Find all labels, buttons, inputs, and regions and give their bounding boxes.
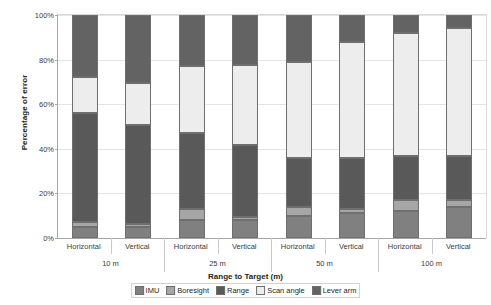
bar-segment-scan-angle: [339, 42, 365, 158]
stacked-bar: [286, 15, 312, 238]
bar-segment-scan-angle: [72, 77, 98, 113]
category-row-range: 10 m25 m50 m100 m: [57, 254, 486, 272]
bar-segment-scan-angle: [125, 83, 151, 125]
legend-label: Range: [227, 286, 249, 295]
category-axis: HorizontalVerticalHorizontalVerticalHori…: [57, 238, 486, 272]
legend-item: IMU: [135, 286, 160, 295]
category-label: Horizontal: [57, 238, 111, 254]
legend-swatch-icon: [216, 286, 225, 295]
legend-swatch-icon: [135, 286, 144, 295]
legend-label: Lever arm: [323, 286, 357, 295]
bar-segment-scan-angle: [446, 28, 472, 155]
bar-segment-boresight: [72, 222, 98, 226]
x-axis-title: Range to Target (m): [0, 272, 491, 281]
y-tick-label: 80%: [39, 55, 54, 64]
y-tick-label: 100%: [35, 11, 54, 20]
bar-segment-range: [179, 133, 205, 209]
bar-segment-lever-arm: [446, 15, 472, 28]
legend-label: Boresight: [177, 286, 209, 295]
bar-segment-boresight: [232, 217, 258, 220]
category-separator: [111, 238, 112, 254]
bar-segment-boresight: [339, 209, 365, 213]
bar-segment-boresight: [393, 200, 419, 211]
bar-segment-boresight: [446, 200, 472, 207]
bar-segment-imu: [286, 216, 312, 238]
stacked-bar: [125, 15, 151, 238]
stacked-bar: [339, 15, 365, 238]
bar-segment-scan-angle: [232, 65, 258, 145]
bar-segment-imu: [393, 211, 419, 238]
category-label: Horizontal: [164, 238, 218, 254]
y-tick-label: 60%: [39, 100, 54, 109]
bar-segment-boresight: [286, 207, 312, 216]
bar-segment-imu: [179, 220, 205, 238]
stacked-bar-chart: Percentage of error 0%20%40%60%80%100% H…: [0, 0, 491, 305]
category-separator: [432, 238, 433, 254]
bar-segment-lever-arm: [125, 15, 151, 83]
legend-item: Boresight: [166, 286, 209, 295]
bar-segment-range: [72, 113, 98, 222]
bar-segment-lever-arm: [179, 15, 205, 66]
legend-swatch-icon: [256, 286, 265, 295]
bar-segment-scan-angle: [286, 62, 312, 158]
category-label: Horizontal: [378, 238, 432, 254]
bar-segment-range: [125, 125, 151, 223]
bar-segment-lever-arm: [72, 15, 98, 77]
bar-segment-range: [339, 158, 365, 209]
category-label: Vertical: [218, 238, 272, 254]
category-label: Vertical: [325, 238, 379, 254]
group-label: 50 m: [271, 254, 378, 272]
bar-segment-lever-arm: [393, 15, 419, 33]
legend-swatch-icon: [312, 286, 321, 295]
stacked-bar: [446, 15, 472, 238]
bar-segment-imu: [72, 227, 98, 238]
bar-segment-lever-arm: [232, 15, 258, 65]
y-axis-title: Percentage of error: [20, 33, 29, 193]
bar-segment-range: [446, 156, 472, 201]
bar-segment-imu: [446, 207, 472, 238]
bar-segment-imu: [232, 220, 258, 238]
category-separator: [325, 238, 326, 254]
legend-item: Scan angle: [256, 286, 305, 295]
stacked-bar: [72, 15, 98, 238]
bar-segment-boresight: [125, 224, 151, 227]
bars-layer: [58, 15, 486, 238]
bar-segment-range: [286, 158, 312, 207]
bar-segment-imu: [339, 213, 365, 238]
bar-segment-scan-angle: [179, 66, 205, 133]
stacked-bar: [179, 15, 205, 238]
group-label: 10 m: [57, 254, 164, 272]
category-separator: [218, 238, 219, 254]
bar-segment-lever-arm: [339, 15, 365, 42]
stacked-bar: [393, 15, 419, 238]
chart-legend: IMUBoresightRangeScan angleLever arm: [131, 283, 361, 298]
bar-segment-range: [393, 156, 419, 201]
legend-item: Lever arm: [312, 286, 357, 295]
group-separator: [378, 238, 379, 272]
legend-label: Scan angle: [267, 286, 305, 295]
y-tick-label: 0%: [43, 234, 54, 243]
plot-area: 0%20%40%60%80%100%: [57, 14, 487, 238]
bar-segment-scan-angle: [393, 33, 419, 156]
stacked-bar: [232, 15, 258, 238]
legend-label: IMU: [146, 286, 160, 295]
group-label: 100 m: [378, 254, 485, 272]
group-separator: [271, 238, 272, 272]
category-label: Vertical: [111, 238, 165, 254]
bar-segment-imu: [125, 227, 151, 238]
group-label: 25 m: [164, 254, 271, 272]
category-label: Horizontal: [271, 238, 325, 254]
category-label: Vertical: [432, 238, 486, 254]
legend-item: Range: [216, 286, 249, 295]
group-separator: [164, 238, 165, 272]
legend-swatch-icon: [166, 286, 175, 295]
y-tick-label: 40%: [39, 144, 54, 153]
bar-segment-boresight: [179, 209, 205, 220]
bar-segment-range: [232, 145, 258, 216]
y-tick-label: 20%: [39, 189, 54, 198]
bar-segment-lever-arm: [286, 15, 312, 62]
